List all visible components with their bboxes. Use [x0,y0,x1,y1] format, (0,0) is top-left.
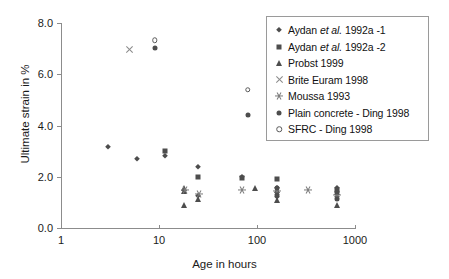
data-point-s6-p1 [245,87,251,93]
marker-open-circle [276,127,282,133]
legend-item-1[interactable]: Aydan et al. 1992a -2 [272,39,428,56]
legend-symbol-square [272,40,286,54]
data-point-s5-p1 [245,113,250,118]
y-tick-mark [57,126,61,127]
data-point-s5-p4 [335,190,340,195]
data-point-s0-p3 [195,164,201,170]
data-point-s6-p0 [152,37,158,43]
data-point-s5-p3 [275,192,280,197]
legend-label: Aydan et al. 1992a -2 [288,41,386,53]
x-tick-label: 100 [237,234,277,246]
legend-symbol-open-circle [272,122,286,136]
marker-square [277,44,282,49]
x-axis-title: Age in hours [0,258,449,270]
x-tick-mark [61,225,62,229]
legend-symbol-x [272,73,286,87]
data-point-s1-p3 [275,176,280,181]
legend-item-3[interactable]: Brite Euram 1998 [272,72,428,89]
data-point-s0-p0 [105,144,111,150]
x-tick-label: 1000 [335,234,375,246]
legend-label: Moussa 1993 [288,90,350,102]
legend-symbol-diamond [272,23,286,37]
legend-symbol-circle [272,106,286,120]
marker-star [275,92,283,100]
data-point-s4-p2 [238,186,246,194]
legend-item-0[interactable]: Aydan et al. 1992a -1 [272,22,428,39]
data-point-s5-p5 [335,197,340,202]
legend-symbol-triangle [272,56,286,70]
data-point-s5-p2 [275,186,280,191]
x-tick-mark [159,225,160,229]
y-tick-label: 8.0 [20,17,53,29]
data-point-s4-p4 [304,186,312,194]
marker-circle [277,110,282,115]
y-tick-mark [57,23,61,24]
data-point-s5-p0 [152,46,157,51]
x-tick-label: 10 [139,234,179,246]
marker-diamond [276,27,282,33]
legend-label: Brite Euram 1998 [288,74,368,86]
legend-item-6[interactable]: SFRC - Ding 1998 [272,121,428,138]
legend-item-4[interactable]: Moussa 1993 [272,88,428,105]
data-point-s1-p1 [196,174,201,179]
legend-label: SFRC - Ding 1998 [288,123,372,135]
data-point-s2-p4 [252,185,258,191]
data-point-s2-p6 [274,197,280,203]
x-tick-mark [355,225,356,229]
legend-label: Probst 1999 [288,57,344,69]
data-point-s3-p0 [125,45,134,54]
chart-legend: Aydan et al. 1992a -1Aydan et al. 1992a … [266,16,429,141]
data-point-s2-p2 [181,202,187,208]
x-axis-line [61,228,356,229]
data-point-s0-p1 [134,156,140,162]
legend-symbol-star [272,89,286,103]
legend-item-2[interactable]: Probst 1999 [272,55,428,72]
data-point-s4-p1 [195,190,203,198]
data-point-s2-p8 [334,202,340,208]
x-tick-mark [257,225,258,229]
legend-item-5[interactable]: Plain concrete - Ding 1998 [272,105,428,122]
data-point-s4-p0 [181,186,189,194]
marker-x [275,75,284,84]
y-tick-mark [57,177,61,178]
marker-triangle [276,60,282,66]
y-tick-mark [57,74,61,75]
y-axis-title: Ultimate strain in % [19,34,31,194]
x-tick-label: 1 [41,234,81,246]
data-point-s0-p2 [162,153,168,159]
legend-label: Aydan et al. 1992a -1 [288,24,386,36]
y-axis-line [61,23,62,229]
data-point-s1-p0 [162,148,167,153]
data-point-s1-p2 [239,176,244,181]
chart-root: 0.0 2.0 4.0 6.0 8.0 1 10 100 1000 Age in… [0,0,449,279]
legend-label: Plain concrete - Ding 1998 [288,107,409,119]
y-tick-label: 0.0 [20,222,53,234]
